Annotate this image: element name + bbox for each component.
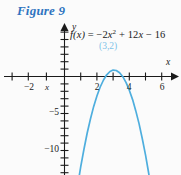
x-axis-label: x xyxy=(166,57,170,67)
y-axis-arrowhead xyxy=(61,23,69,31)
vertex-point-label: (3,2) xyxy=(99,41,117,51)
function-equation-label: f(x) = −2x2 + 12x − 16 xyxy=(70,29,165,40)
parabola-curve xyxy=(78,70,150,175)
x-tick-label-neg2: −2 xyxy=(22,82,36,92)
equation-mid: + 12 xyxy=(116,29,138,40)
equation-tail: − 16 xyxy=(143,29,165,40)
figure-container: Figure 9 xyxy=(0,0,181,175)
x-tick-label-2: 2 xyxy=(91,82,103,92)
x-tick-label-6: 6 xyxy=(156,82,168,92)
y-tick-label-neg10: −10 xyxy=(36,144,59,154)
x-axis-inline-label: x xyxy=(45,82,49,92)
equation-eq: = −2 xyxy=(85,29,108,40)
y-tick-label-neg5: −5 xyxy=(41,107,59,117)
y-axis-label: y xyxy=(72,22,76,32)
x-axis-arrowhead xyxy=(171,73,179,81)
x-tick-label-4: 4 xyxy=(123,82,135,92)
